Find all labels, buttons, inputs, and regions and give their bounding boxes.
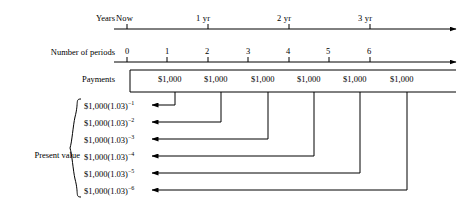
pv-exponent-6: −6 (128, 185, 134, 191)
pv-base-5: $1,000(1.03) (84, 169, 128, 179)
payment-label-1: $1,000 (158, 74, 181, 84)
period-label-1: 1 (156, 46, 178, 56)
payment-label-3: $1,000 (251, 74, 274, 84)
discount-arrow-3 (152, 92, 268, 139)
years-axis (114, 24, 456, 29)
payment-label-4: $1,000 (297, 74, 320, 84)
period-label-3: 3 (237, 46, 259, 56)
year-tick-label-2yr: 2 yr (277, 13, 291, 23)
row-label-payments: Payments (30, 74, 115, 84)
discount-arrow-1 (152, 92, 175, 105)
present-value-brace (70, 99, 81, 197)
diagram-canvas: Years Number of periods Payments Present… (0, 0, 476, 207)
discount-arrow-5 (152, 92, 360, 173)
row-label-number-of-periods: Number of periods (10, 47, 115, 57)
pv-base-6: $1,000(1.03) (84, 186, 128, 196)
pv-exponent-3: −3 (128, 134, 134, 140)
pv-exponent-1: −1 (128, 100, 134, 106)
pv-base-4: $1,000(1.03) (84, 152, 128, 162)
period-label-4: 4 (277, 46, 299, 56)
pv-exponent-4: −4 (128, 151, 134, 157)
year-tick-label-3yr: 3 yr (358, 13, 372, 23)
present-value-expression-5: $1,000(1.03)−5 (84, 168, 134, 179)
discount-arrow-2 (152, 92, 221, 122)
payment-label-2: $1,000 (204, 74, 227, 84)
payment-label-5: $1,000 (343, 74, 366, 84)
present-value-expression-2: $1,000(1.03)−2 (84, 117, 134, 128)
timeline-lines (0, 0, 476, 207)
present-value-expression-1: $1,000(1.03)−1 (84, 100, 134, 111)
discount-arrow-6 (152, 92, 407, 190)
present-value-expression-4: $1,000(1.03)−4 (84, 151, 134, 162)
pv-base-1: $1,000(1.03) (84, 101, 128, 111)
pv-exponent-2: −2 (128, 117, 134, 123)
periods-axis (114, 57, 456, 62)
year-tick-label-now: Now (116, 13, 133, 23)
row-label-years: Years (20, 13, 115, 23)
present-value-expression-3: $1,000(1.03)−3 (84, 134, 134, 145)
pv-exponent-5: −5 (128, 168, 134, 174)
present-value-expression-6: $1,000(1.03)−6 (84, 185, 134, 196)
period-label-5: 5 (317, 46, 339, 56)
pv-base-3: $1,000(1.03) (84, 135, 128, 145)
period-label-2: 2 (196, 46, 218, 56)
payment-label-6: $1,000 (390, 74, 413, 84)
row-label-present-value: Present value (5, 150, 80, 160)
period-label-6: 6 (358, 46, 380, 56)
year-tick-label-1yr: 1 yr (196, 13, 210, 23)
pv-base-2: $1,000(1.03) (84, 118, 128, 128)
period-label-0: 0 (116, 46, 138, 56)
discount-arrow-4 (152, 92, 314, 156)
